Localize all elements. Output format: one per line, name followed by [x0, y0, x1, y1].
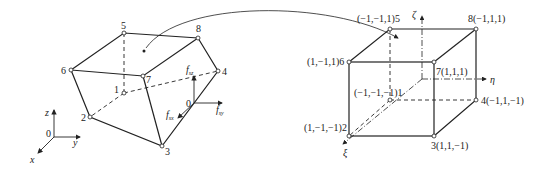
axis-eta-label: η: [490, 74, 495, 85]
physical-element: [71, 33, 222, 146]
ref-node-label-7: 7(1,1,1): [436, 66, 468, 78]
node-label-6: 6: [61, 65, 66, 76]
node-label-7: 7: [146, 74, 151, 85]
axis-y-label: y: [72, 137, 78, 148]
force-origin-label: 0: [186, 98, 191, 109]
diagram-canvas: 1 2 3 4 5 6 7 8 fsz fsy fsx 0 z y x 0: [0, 0, 544, 171]
physical-node-labels: 1 2 3 4 5 6 7 8 fsz fsy fsx 0: [61, 20, 227, 157]
ref-node-label-5: (−1,−1,1)5: [357, 13, 400, 25]
node-label-5: 5: [121, 20, 126, 31]
axis-z-label: z: [44, 107, 49, 118]
ref-node-label-8: 8(−1,1,1): [468, 13, 505, 25]
axis-xi-label: ξ: [343, 147, 348, 159]
axis-origin-label: 0: [46, 128, 51, 139]
node-label-8: 8: [196, 23, 201, 34]
node-label-4: 4: [222, 66, 227, 77]
axis-x-label: x: [29, 154, 35, 165]
ref-node-label-6: (1,−1,1)6: [307, 56, 344, 68]
node-label-2: 2: [81, 112, 86, 123]
physical-nodes: [69, 31, 220, 148]
force-label-fsz: fsz: [186, 64, 194, 76]
reference-nodes: [347, 27, 478, 138]
hexahedral-element-mapping-diagram: 1 2 3 4 5 6 7 8 fsz fsy fsx 0 z y x 0: [0, 0, 544, 171]
reference-cube: [343, 16, 486, 144]
node-label-3: 3: [165, 146, 170, 157]
ref-node-label-3: 3(1,1,−1): [431, 140, 468, 152]
axis-zeta-label: ζ: [412, 9, 417, 21]
ref-node-label-4: 4(−1,1,−1): [481, 95, 524, 107]
force-label-fsx: fsx: [166, 109, 174, 121]
ref-node-label-1: (−1,−1,−1)1: [354, 87, 403, 99]
node-label-1: 1: [114, 84, 119, 95]
ref-node-label-2: (1,−1,−1)2: [304, 122, 347, 134]
force-label-fsy: fsy: [216, 104, 224, 116]
